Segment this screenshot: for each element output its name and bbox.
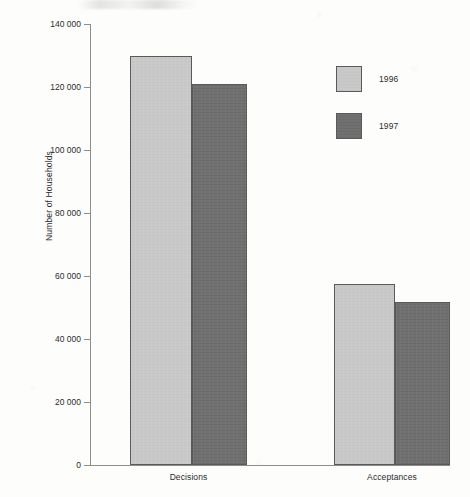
bar-acceptances-1996[interactable]: [334, 284, 395, 465]
y-axis-tick-label: 80 000: [55, 208, 81, 218]
x-axis-category-label: Acceptances: [342, 472, 442, 482]
legend-item-1997[interactable]: 1997: [336, 113, 398, 139]
y-axis-tick-label: 100 000: [50, 145, 81, 155]
bar-chart-figure: Number of Households 140 000120 000100 0…: [0, 0, 470, 497]
scan-smudge-artifact: [78, 0, 198, 9]
legend-label-1996: 1996: [379, 74, 398, 84]
x-axis-category-label: Decisions: [139, 472, 239, 482]
legend-swatch-1997-icon: [336, 113, 362, 139]
legend-swatch-1996-icon: [336, 66, 362, 92]
y-axis-tick-label: 40 000: [55, 334, 81, 344]
bar-decisions-1997[interactable]: [192, 84, 247, 465]
x-axis-line: [90, 465, 450, 466]
y-axis-tick-label: 20 000: [55, 397, 81, 407]
y-axis-tick-label: 120 000: [50, 82, 81, 92]
y-axis-tick-label: 140 000: [50, 19, 81, 29]
chart-legend: 1996 1997: [336, 66, 398, 160]
legend-label-1997: 1997: [379, 121, 398, 131]
bar-decisions-1996[interactable]: [130, 56, 192, 466]
bar-acceptances-1997[interactable]: [395, 302, 450, 465]
legend-item-1996[interactable]: 1996: [336, 66, 398, 92]
y-axis-tick-label: 60 000: [55, 271, 81, 281]
y-axis-tick-label: 0: [76, 460, 81, 470]
